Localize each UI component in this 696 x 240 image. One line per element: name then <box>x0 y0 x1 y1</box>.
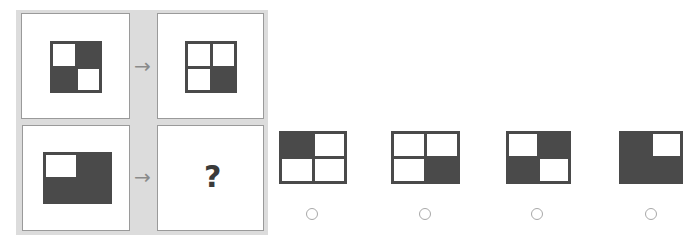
quadrant-dark <box>282 134 312 156</box>
option-a-radio[interactable] <box>306 208 318 220</box>
quadrant-dark <box>46 180 76 202</box>
quadrant-white <box>188 69 210 91</box>
quadrant-dark <box>53 69 75 91</box>
quadrant-dark <box>78 44 100 66</box>
option-c-figure[interactable] <box>506 131 571 184</box>
quadrant-dark <box>622 134 650 156</box>
arrow-icon: → <box>134 56 151 76</box>
quadrant-dark <box>79 180 109 202</box>
option-d-radio[interactable] <box>645 208 657 220</box>
option-c-radio[interactable] <box>531 208 543 220</box>
arrow-icon: → <box>134 167 151 187</box>
quadrant-dark <box>653 159 681 181</box>
quadrant-white <box>213 44 235 66</box>
pattern-figure <box>185 41 237 93</box>
pattern-figure <box>43 152 112 204</box>
pattern-figure <box>50 41 102 93</box>
example-cell-top-right <box>157 13 264 119</box>
answer-cell: ? <box>157 125 264 231</box>
quadrant-white <box>394 159 424 181</box>
quadrant-dark <box>79 155 109 177</box>
quadrant-dark <box>427 159 457 181</box>
quadrant-white <box>540 159 568 181</box>
quadrant-white <box>78 69 100 91</box>
quadrant-white <box>315 134 345 156</box>
option-a-figure[interactable] <box>279 131 347 184</box>
example-cell-top-left <box>21 13 130 119</box>
quadrant-dark <box>213 69 235 91</box>
quadrant-dark <box>540 134 568 156</box>
quadrant-white <box>282 159 312 181</box>
quadrant-white <box>53 44 75 66</box>
quadrant-white <box>188 44 210 66</box>
quadrant-dark <box>509 159 537 181</box>
quadrant-white <box>394 134 424 156</box>
quadrant-white <box>509 134 537 156</box>
example-cell-bottom-left <box>22 125 130 231</box>
quadrant-white <box>653 134 681 156</box>
option-d-figure[interactable] <box>619 131 683 184</box>
quadrant-white <box>427 134 457 156</box>
option-b-radio[interactable] <box>419 208 431 220</box>
quadrant-dark <box>622 159 650 181</box>
quadrant-white <box>315 159 345 181</box>
quadrant-white <box>46 155 76 177</box>
question-mark: ? <box>204 159 221 194</box>
option-b-figure[interactable] <box>391 131 460 184</box>
